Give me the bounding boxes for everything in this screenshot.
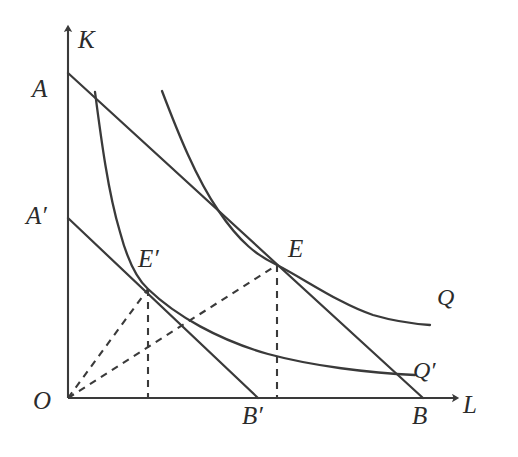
l-axis-label: L	[463, 392, 477, 417]
label-q: Q	[437, 285, 454, 309]
label-e: E	[288, 236, 303, 261]
isoquant-q-curve	[162, 91, 430, 325]
label-a: A	[32, 76, 47, 101]
label-e-prime: E′	[138, 246, 159, 271]
label-q-prime: Q′	[413, 358, 436, 382]
label-b-prime: B′	[242, 403, 263, 428]
origin-label: O	[33, 388, 51, 413]
isoquant-q-prime-curve	[95, 92, 415, 375]
isocost-line-a-prime-b-prime	[68, 218, 258, 398]
figure-canvas	[0, 0, 518, 457]
ray-origin-to-e	[68, 265, 277, 398]
k-axis-label: K	[78, 27, 95, 52]
isoquants-group	[95, 91, 430, 375]
label-b: B	[412, 403, 427, 428]
axes-group	[68, 29, 455, 398]
label-a-prime: A′	[26, 203, 47, 228]
ray-origin-to-e-prime	[68, 289, 148, 398]
isoquant-isocost-figure: K L O A A′ B B′ E E′ Q Q′	[0, 0, 518, 457]
dashed-construction-lines-group	[68, 265, 277, 398]
